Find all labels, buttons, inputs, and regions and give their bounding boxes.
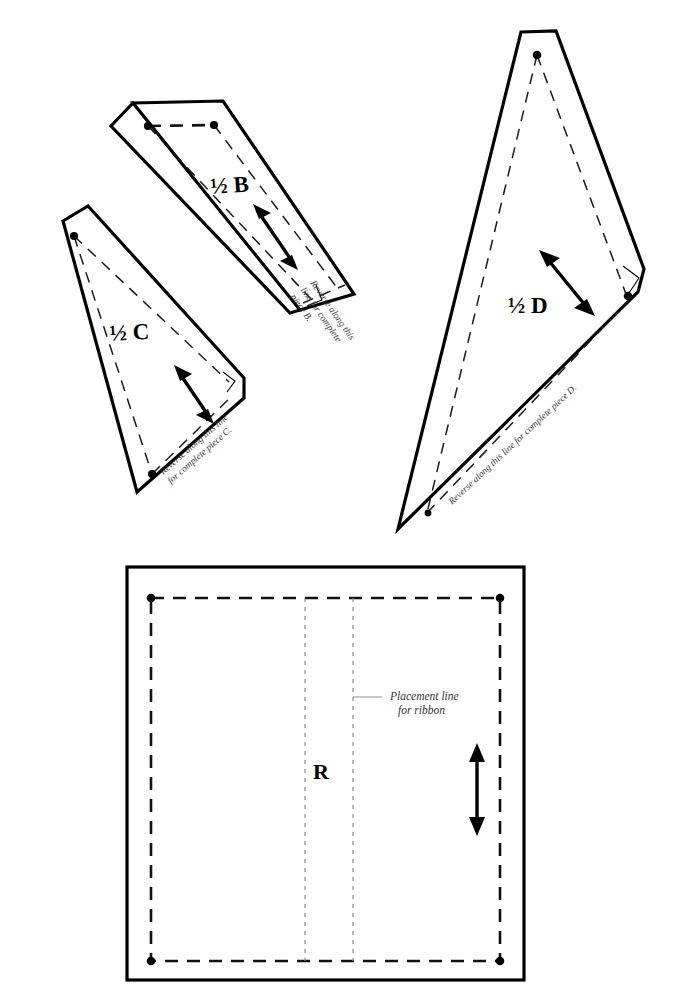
piece-b-cutting-line	[133, 101, 354, 310]
piece-c-grainline-arrow	[174, 365, 214, 424]
pattern-piece-c[interactable]: ½ C Reverse along this line for complete…	[63, 206, 244, 492]
piece-c-reverse-note: Reverse along this line for complete pie…	[157, 412, 238, 486]
piece-c-dot-bottom	[148, 470, 156, 478]
piece-d-seam-bottom	[427, 299, 630, 513]
pattern-canvas: ½ B Reverse along this line for complete…	[0, 0, 683, 998]
piece-r-dot-top-left	[147, 594, 156, 603]
piece-r-ribbon-note-line-1: Placement line	[389, 690, 459, 702]
piece-c-dot-top	[70, 232, 78, 240]
piece-r-grainline-arrow	[469, 743, 485, 836]
piece-b-seam-top	[148, 125, 214, 126]
piece-b-label: ½ B	[210, 171, 250, 199]
piece-d-dot-top	[533, 51, 542, 60]
piece-b-dot-right	[210, 121, 218, 129]
piece-r-dot-bottom-right	[496, 957, 505, 966]
pattern-sheet: ½ B Reverse along this line for complete…	[0, 0, 683, 998]
piece-d-dot-right	[624, 292, 633, 301]
piece-r-ribbon-note-line-2: for ribbon	[398, 704, 445, 717]
piece-d-reverse-note: Reverse along this line for complete pie…	[446, 383, 579, 508]
pattern-piece-r[interactable]: R Placement line for ribbon	[127, 567, 524, 980]
piece-d-dot-bottom	[425, 510, 432, 517]
piece-b-cut-corner	[111, 103, 300, 313]
piece-r-dot-top-right	[496, 594, 505, 603]
piece-d-label: ½ D	[508, 293, 548, 318]
piece-d-note-line-1: Reverse along this line for complete pie…	[446, 383, 579, 508]
piece-b-dot-left	[144, 122, 152, 130]
piece-b-seam-right	[214, 125, 338, 289]
piece-d-cutting-line	[398, 31, 644, 529]
piece-d-notch-bracket	[623, 266, 639, 293]
piece-c-cutting-line	[63, 206, 244, 492]
piece-r-label: R	[313, 759, 330, 784]
piece-b-reverse-note: Reverse along this line for complete pie…	[288, 278, 357, 356]
piece-r-dot-bottom-left	[147, 957, 156, 966]
piece-c-seam-left	[74, 236, 152, 474]
pattern-piece-d[interactable]: ½ D Reverse along this line for complete…	[398, 31, 644, 529]
piece-c-label: ½ C	[109, 319, 150, 346]
pattern-piece-b[interactable]: ½ B Reverse along this line for complete…	[111, 101, 357, 356]
piece-r-ribbon-note: Placement line for ribbon	[389, 690, 459, 717]
